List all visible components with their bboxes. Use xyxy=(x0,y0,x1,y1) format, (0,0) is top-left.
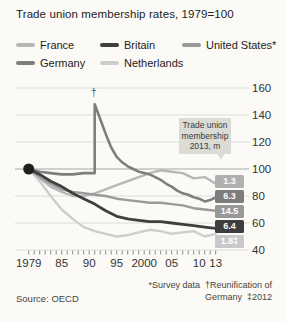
x-axis-label-13: 13 xyxy=(209,257,222,269)
y-axis-label-160: 160 xyxy=(252,82,271,94)
value-badge-france: 1.3 xyxy=(215,175,244,188)
legend-item-germany: Germany xyxy=(16,56,85,70)
germany-line-swatch xyxy=(16,61,35,65)
reunification-dagger-annotation: † xyxy=(91,87,97,98)
y-axis-label-140: 140 xyxy=(252,109,271,121)
france-line-swatch xyxy=(16,43,35,47)
value-badge-united-states: 14.5 xyxy=(215,205,244,218)
source-note: Source: OECD xyxy=(16,293,79,304)
x-axis-label-85: 85 xyxy=(55,257,68,269)
netherlands-line-swatch xyxy=(100,61,119,65)
y-axis-label-100: 100 xyxy=(252,163,271,175)
legend-label-germany: Germany xyxy=(40,56,85,70)
legend-label-united-states: United States* xyxy=(206,38,276,52)
legend-label-britain: Britain xyxy=(124,38,155,52)
legend-item-netherlands: Netherlands xyxy=(100,56,183,70)
callout-pointer-triangle xyxy=(217,153,225,160)
legend-item-britain: Britain xyxy=(100,38,155,52)
x-axis-label-1979: 1979 xyxy=(16,257,42,269)
value-badge-netherlands: 1.8‡ xyxy=(215,235,244,248)
x-axis-label-95: 95 xyxy=(110,257,123,269)
legend-label-france: France xyxy=(40,38,74,52)
value-badge-germany: 6.3 xyxy=(215,190,244,203)
x-axis-label-90: 90 xyxy=(83,257,96,269)
y-axis-label-60: 60 xyxy=(252,217,265,229)
legend-item-france: France xyxy=(16,38,74,52)
footnote-line-2: Germany ‡2012 xyxy=(148,292,272,304)
legend-item-united-states: United States* xyxy=(182,38,276,52)
footnote-line-1: *Survey data †Reunification of xyxy=(148,280,272,292)
chart-title: Trade union membership rates, 1979=100 xyxy=(16,8,234,20)
y-axis-label-40: 40 xyxy=(252,244,265,256)
x-axis-label-10: 10 xyxy=(193,257,206,269)
footnotes: *Survey data †Reunification of Germany ‡… xyxy=(148,280,272,303)
y-axis-label-120: 120 xyxy=(252,136,271,148)
britain-line-swatch xyxy=(100,43,119,47)
united-states-line-swatch xyxy=(182,43,201,47)
x-axis-label-05: 05 xyxy=(165,257,178,269)
y-axis-label-80: 80 xyxy=(252,190,265,202)
x-axis-label-2000: 2000 xyxy=(131,257,157,269)
legend-label-netherlands: Netherlands xyxy=(124,56,183,70)
membership-callout-box: Trade union membership 2013, m xyxy=(179,118,231,154)
chart-figure: Trade union membership rates, 1979=100 F… xyxy=(0,0,286,322)
value-badge-britain: 6.4 xyxy=(215,220,244,233)
